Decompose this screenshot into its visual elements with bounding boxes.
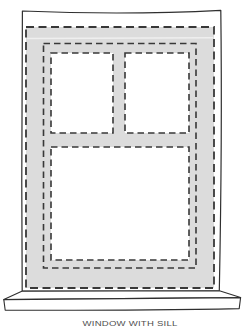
upper-sash-left-pane bbox=[51, 53, 113, 133]
lower-sash-pane bbox=[51, 147, 189, 260]
diagram-caption: WINDOW WITH SILL bbox=[83, 319, 178, 328]
window-with-sill-illustration: WINDOW WITH SILL bbox=[0, 0, 252, 329]
casing-highlight-line bbox=[27, 38, 213, 39]
window-with-sill-diagram: WINDOW WITH SILL bbox=[0, 0, 252, 329]
upper-sash-right-pane bbox=[125, 53, 189, 133]
sill-front-face bbox=[4, 298, 241, 311]
